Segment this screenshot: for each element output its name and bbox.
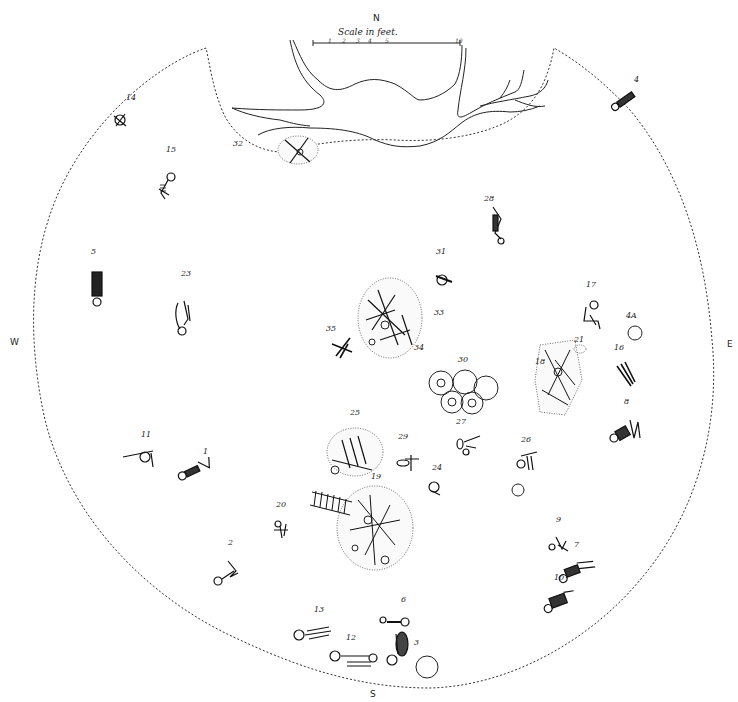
compass-south: S <box>370 690 376 699</box>
burial-label-12: 12 <box>346 634 356 642</box>
excavation-boundary <box>34 48 714 688</box>
scale-tick: 5 <box>385 37 389 44</box>
burial-label-26: 26 <box>521 436 531 444</box>
scale-title: Scale in feet. <box>338 27 398 37</box>
scale-tick: 1 <box>328 37 332 44</box>
scale-tick: 2 <box>342 37 346 44</box>
burial-label-15: 15 <box>166 146 176 154</box>
burial-label-4: 4 <box>634 76 639 84</box>
pot-isolated-south <box>416 656 438 678</box>
burial-label-21: 21 <box>574 336 584 344</box>
burial-label-10: 10 <box>554 574 564 582</box>
burial-site-map <box>0 0 738 702</box>
burial-label-14: 14 <box>126 94 136 102</box>
scale-tick: 4 <box>368 37 372 44</box>
burial-label-5: 5 <box>91 248 96 256</box>
compass-east: E <box>727 340 733 349</box>
burial-label-1: 1 <box>203 448 208 456</box>
burial-label-34: 34 <box>414 344 424 352</box>
ossuary-25 <box>327 428 383 476</box>
pot-cluster-30 <box>429 370 498 414</box>
burial-label-25: 25 <box>350 409 360 417</box>
compass-north: N <box>373 14 380 23</box>
ossuary-19 <box>337 486 413 570</box>
burial-label-32: 32 <box>233 140 243 148</box>
burial-label-23: 23 <box>181 270 191 278</box>
burial-label-20: 20 <box>276 501 286 509</box>
burial-label-9: 9 <box>556 516 561 524</box>
burial-label-35: 35 <box>326 325 336 333</box>
pot-4A <box>628 326 642 340</box>
burial-label-13: 13 <box>314 606 324 614</box>
scale-tick: 10 <box>455 37 463 44</box>
compass-west: W <box>10 338 19 347</box>
burial-label-3: 3 <box>414 639 419 647</box>
burial-label-4A: 4A <box>626 312 637 320</box>
burial-label-31: 31 <box>436 248 446 256</box>
burial-label-18: 18 <box>535 358 545 366</box>
burial-label-2: 2 <box>228 539 233 547</box>
burial-label-29: 29 <box>398 433 408 441</box>
burial-label-28: 28 <box>484 195 494 203</box>
ossuary-33 <box>358 278 422 358</box>
bone-pile-32 <box>278 136 318 164</box>
pot-isolated <box>512 484 524 496</box>
burial-label-8: 8 <box>624 398 629 406</box>
burial-label-27: 27 <box>456 418 466 426</box>
burial-label-11: 11 <box>141 431 151 439</box>
burial-label-30: 30 <box>458 356 468 364</box>
burial-label-6: 6 <box>401 596 406 604</box>
burial-label-33: 33 <box>434 309 444 317</box>
burial-label-19: 19 <box>371 473 381 481</box>
scale-tick: 3 <box>356 37 360 44</box>
tree-roots <box>232 40 548 147</box>
burial-label-17: 17 <box>586 281 596 289</box>
burial-label-7: 7 <box>574 541 579 549</box>
burial-label-16: 16 <box>614 344 624 352</box>
burial-label-24: 24 <box>432 464 442 472</box>
